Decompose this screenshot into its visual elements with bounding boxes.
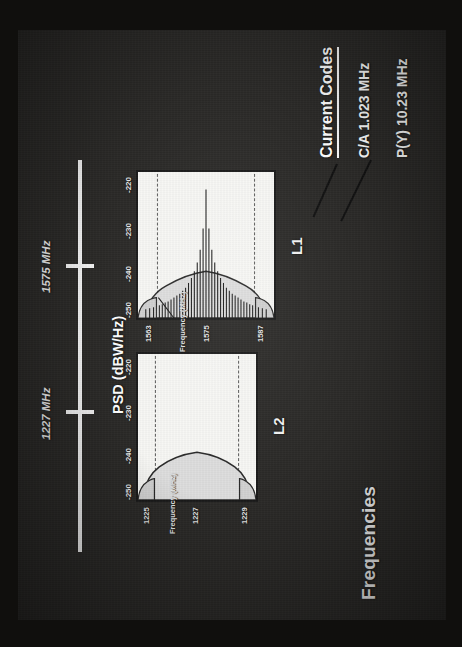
frequency-tick-1575 — [66, 264, 94, 268]
slide-canvas: 1227 MHz 1575 MHz Frequencies PSD (dBW/H… — [18, 30, 446, 620]
l1-ytick-3: -220 — [124, 177, 133, 193]
l2-xaxis-title: Frequency (MHz) — [168, 474, 177, 534]
current-codes-title: Current Codes — [318, 47, 339, 158]
leader-line-py — [340, 160, 372, 222]
slide-content: 1227 MHz 1575 MHz Frequencies PSD (dBW/H… — [18, 30, 446, 620]
frequency-tick-1227 — [66, 410, 94, 414]
l2-xtick-2: 1229 — [240, 507, 249, 524]
l1-xtick-1: 1575 — [202, 325, 211, 342]
l2-ytick-0: -250 — [124, 484, 133, 500]
chart-label-l2: L2 — [270, 417, 287, 435]
photo-frame: 1227 MHz 1575 MHz Frequencies PSD (dBW/H… — [0, 0, 462, 647]
l1-spectrum-svg — [138, 172, 274, 318]
l2-xtick-1: 1227 — [191, 507, 200, 524]
l2-ytick-1: -240 — [124, 448, 133, 464]
slide-rotation-wrapper: 1227 MHz 1575 MHz Frequencies PSD (dBW/H… — [18, 30, 446, 620]
l2-ytick-2: -230 — [124, 405, 133, 421]
l1-ytick-0: -250 — [124, 302, 133, 318]
l2-spectrum-svg — [138, 354, 256, 500]
chart-label-l1: L1 — [288, 237, 305, 255]
frequency-tick-label-1575: 1575 MHz — [40, 241, 52, 293]
l1-xtick-0: 1563 — [144, 325, 153, 342]
l1-ytick-2: -230 — [124, 223, 133, 239]
l1-ytick-1: -240 — [124, 266, 133, 282]
frequencies-title: Frequencies — [358, 486, 380, 600]
legend-item-ca-code: C/A 1.023 MHz — [356, 63, 372, 158]
frequency-axis-line — [78, 160, 82, 552]
l2-xtick-0: 1225 — [142, 507, 151, 524]
chart-l1-plot — [136, 170, 276, 320]
legend-item-py-code: P(Y) 10.23 MHz — [394, 58, 410, 158]
leader-line-ca — [312, 164, 337, 218]
l1-xtick-2: 1587 — [256, 325, 265, 342]
frequency-tick-label-1227: 1227 MHz — [40, 388, 52, 440]
l2-ytick-3: -220 — [124, 359, 133, 375]
chart-l2-plot — [136, 352, 258, 502]
l1-xaxis-title: Frequency (MHz) — [178, 292, 187, 352]
